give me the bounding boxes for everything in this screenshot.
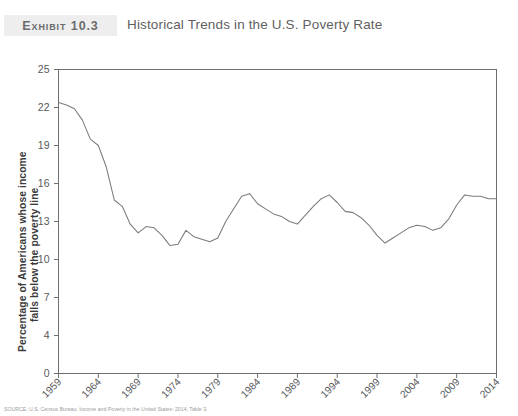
plot-frame (59, 70, 497, 374)
source-note: SOURCE: U.S. Census Bureau, Income and P… (4, 406, 207, 412)
x-axis-ticks: 1959196419691974197919841989199419992004… (40, 374, 502, 400)
chart-canvas: Percentage of Americans whose income fal… (0, 52, 518, 416)
x-axis-tick-label: 1989 (279, 376, 303, 400)
y-axis-tick-label: 19 (38, 139, 50, 151)
x-axis-tick-label: 1979 (199, 376, 223, 400)
x-axis-tick-label: 1999 (358, 376, 382, 400)
y-axis-ticks: 252219161310740 (38, 63, 59, 379)
x-axis-tick-label: 1969 (119, 376, 143, 400)
y-axis-tick-label: 4 (44, 329, 50, 341)
y-axis-tick-label: 13 (38, 215, 50, 227)
poverty-rate-series-line (59, 102, 497, 245)
y-axis-tick-label: 16 (38, 177, 50, 189)
x-axis-tick-label: 1984 (239, 376, 263, 400)
y-axis-tick-label: 25 (38, 63, 50, 75)
plot-border (59, 70, 497, 374)
y-axis-title-line-1: Percentage of Americans whose income (17, 151, 28, 352)
exhibit-badge: Exhibit 10.3 (4, 15, 117, 36)
x-axis-tick-label: 2009 (438, 376, 462, 400)
y-axis-tick-label: 7 (44, 291, 50, 303)
x-axis-tick-label: 1974 (159, 376, 183, 400)
x-axis-tick-label: 1959 (40, 376, 64, 400)
y-axis-tick-label: 22 (38, 101, 50, 113)
exhibit-number-label: Exhibit 10.3 (22, 19, 98, 33)
x-axis-tick-label: 1994 (318, 376, 342, 400)
x-axis-tick-label: 2014 (478, 376, 502, 400)
x-axis-tick-label: 2004 (398, 376, 422, 400)
poverty-rate-line-chart: Percentage of Americans whose income fal… (0, 52, 518, 416)
y-axis-tick-label: 0 (44, 367, 50, 379)
y-axis-tick-label: 10 (38, 253, 50, 265)
exhibit-header: Exhibit 10.3 Historical Trends in the U.… (0, 0, 518, 52)
y-axis-title: Percentage of Americans whose income fal… (17, 151, 40, 352)
x-axis-tick-label: 1964 (79, 376, 103, 400)
page-title: Historical Trends in the U.S. Poverty Ra… (127, 17, 382, 32)
